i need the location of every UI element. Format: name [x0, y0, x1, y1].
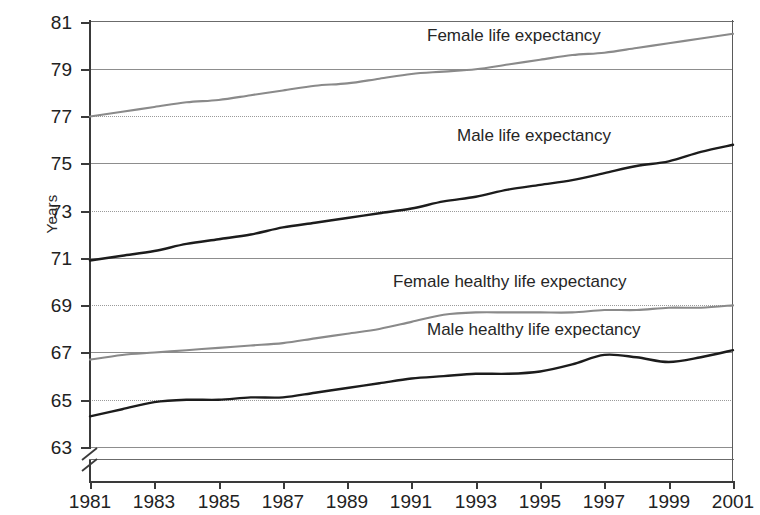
series-label-male-healthy-life-expectancy: Male healthy life expectancy — [424, 320, 644, 340]
series-line-female-life-expectancy — [90, 34, 733, 117]
series-line-male-healthy-life-expectancy — [90, 350, 733, 416]
series-label-male-life-expectancy: Male life expectancy — [454, 126, 614, 146]
life-expectancy-chart: Years 81797775737169676563 1981198319851… — [0, 0, 760, 515]
series-label-female-healthy-life-expectancy: Female healthy life expectancy — [390, 272, 629, 292]
series-lines — [0, 0, 760, 515]
series-line-male-life-expectancy — [90, 145, 733, 261]
series-label-female-life-expectancy: Female life expectancy — [424, 26, 604, 46]
